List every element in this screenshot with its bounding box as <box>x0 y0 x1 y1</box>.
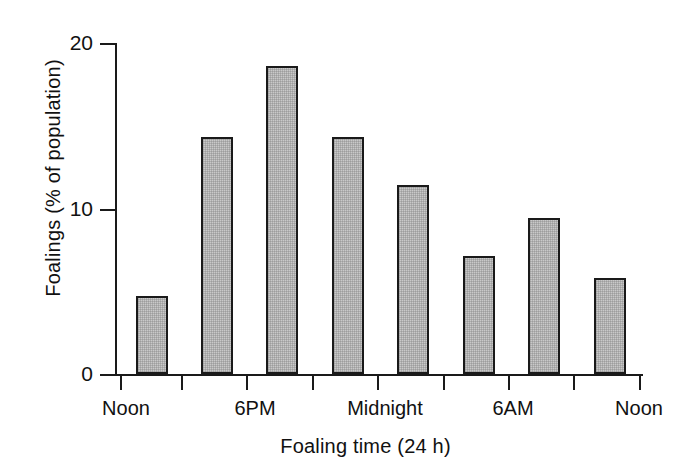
x-axis-line <box>115 374 643 376</box>
x-tick-2 <box>246 376 248 390</box>
y-tick-0 <box>100 374 117 376</box>
bar-1 <box>201 137 233 374</box>
x-tick-4 <box>377 376 379 390</box>
x-label-6pm: 6PM <box>234 396 275 420</box>
y-axis-title: Foalings (% of population) <box>36 0 70 368</box>
y-tick-label-10: 10 <box>33 198 93 219</box>
bar-6 <box>528 218 560 374</box>
bar-2 <box>266 66 298 374</box>
x-tick-3 <box>312 376 314 390</box>
x-label-noon-end: Noon <box>615 396 663 420</box>
x-tick-8 <box>639 376 641 390</box>
x-label-noon-start: Noon <box>102 396 150 420</box>
bar-7 <box>594 278 626 374</box>
x-tick-0 <box>120 376 122 390</box>
bar-5 <box>463 256 495 374</box>
x-tick-5 <box>443 376 445 390</box>
bar-0 <box>136 296 168 374</box>
y-tick-label-0: 0 <box>33 363 93 384</box>
bar-4 <box>397 185 429 374</box>
x-axis-title: Foaling time (24 h) <box>0 434 697 458</box>
x-tick-6 <box>508 376 510 390</box>
x-tick-1 <box>181 376 183 390</box>
chart-figure: Foalings (% of population) 20 10 0 Noon … <box>0 0 697 476</box>
y-tick-10 <box>100 209 117 211</box>
x-label-6am: 6AM <box>492 396 533 420</box>
bar-3 <box>332 137 364 374</box>
y-tick-label-20: 20 <box>33 32 93 53</box>
y-tick-20 <box>100 43 117 45</box>
x-tick-7 <box>573 376 575 390</box>
x-label-midnight: Midnight <box>347 396 423 420</box>
